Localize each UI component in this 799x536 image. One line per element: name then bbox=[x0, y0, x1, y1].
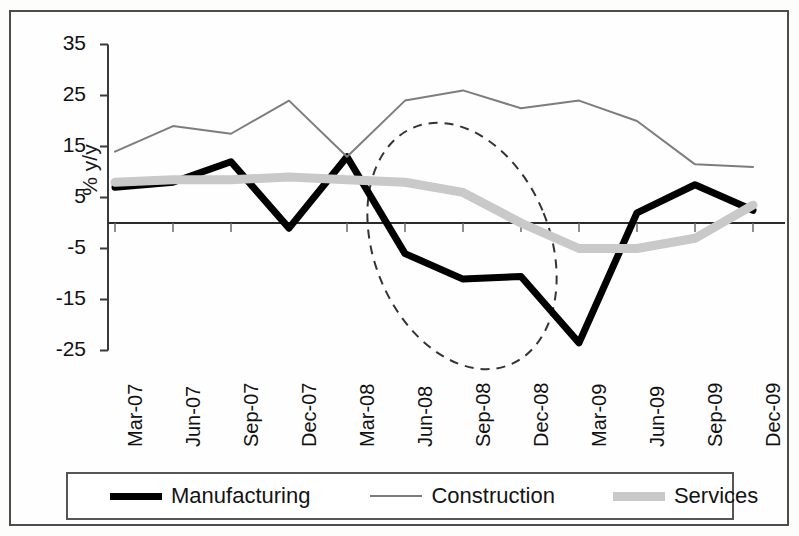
legend-item-construction[interactable]: Construction bbox=[370, 483, 555, 509]
x-tick-label: Jun-07 bbox=[182, 386, 205, 447]
y-tick-label: 25 bbox=[34, 82, 86, 106]
legend-swatch-manufacturing-icon bbox=[110, 493, 162, 500]
y-tick-label: 15 bbox=[34, 133, 86, 157]
legend-label-manufacturing: Manufacturing bbox=[171, 483, 310, 509]
x-tick-label: Dec-07 bbox=[298, 383, 321, 447]
x-tick-label: Sep-09 bbox=[704, 383, 727, 448]
y-tick-label: 5 bbox=[34, 184, 86, 208]
y-tick-label: -5 bbox=[34, 235, 86, 259]
y-axis-label: % y/y bbox=[78, 100, 102, 240]
x-tick-label: Jun-09 bbox=[646, 386, 669, 447]
x-tick-label: Sep-08 bbox=[472, 383, 495, 448]
legend-item-manufacturing[interactable]: Manufacturing bbox=[110, 483, 310, 509]
y-tick-label: -25 bbox=[34, 337, 86, 361]
chart-legend: Manufacturing Construction Services bbox=[66, 472, 734, 520]
legend-swatch-services-icon bbox=[613, 492, 665, 501]
y-tick-label: 35 bbox=[34, 31, 86, 55]
x-tick-label: Jun-08 bbox=[414, 386, 437, 447]
figure-border bbox=[9, 10, 789, 526]
x-tick-label: Dec-09 bbox=[762, 383, 785, 447]
legend-item-services[interactable]: Services bbox=[613, 483, 758, 509]
chart-figure: % y/y 3525155-5-15-25 Mar-07Jun-07Sep-07… bbox=[0, 0, 799, 536]
y-tick-label: -15 bbox=[34, 286, 86, 310]
legend-label-construction: Construction bbox=[431, 483, 555, 509]
x-tick-label: Dec-08 bbox=[530, 383, 553, 447]
x-tick-label: Mar-09 bbox=[588, 384, 611, 447]
legend-label-services: Services bbox=[674, 483, 758, 509]
x-tick-label: Mar-07 bbox=[124, 384, 147, 447]
legend-swatch-construction-icon bbox=[370, 495, 422, 497]
x-tick-label: Sep-07 bbox=[240, 383, 263, 448]
x-tick-label: Mar-08 bbox=[356, 384, 379, 447]
